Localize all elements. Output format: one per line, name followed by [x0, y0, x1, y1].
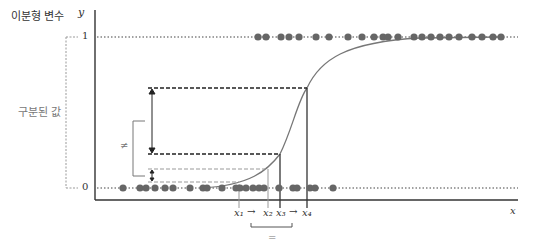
- observation-dot: [370, 33, 377, 40]
- observation-dot: [218, 184, 225, 191]
- x1-label: x₁: [234, 207, 244, 218]
- observation-dot: [358, 33, 365, 40]
- y-tick-1: 1: [82, 30, 88, 41]
- observation-dot: [445, 33, 452, 40]
- arrow-x3-x4: →: [289, 206, 297, 217]
- observation-dot: [186, 184, 193, 191]
- logistic-curve: [200, 37, 500, 188]
- observation-dot: [161, 184, 168, 191]
- observation-dot: [478, 33, 485, 40]
- observation-dot: [260, 184, 267, 191]
- equal-bracket: [251, 223, 292, 227]
- observation-dot: [119, 184, 126, 191]
- observation-dot: [468, 33, 475, 40]
- observation-dot: [295, 33, 302, 40]
- observation-dot: [344, 33, 351, 40]
- x4-label: x₄: [302, 207, 312, 218]
- y-tick-0: 0: [82, 181, 88, 192]
- observation-dot: [142, 184, 149, 191]
- y-axis-symbol: y: [78, 6, 84, 19]
- observation-dot: [489, 33, 496, 40]
- observation-dot: [384, 33, 391, 40]
- observation-dot: [436, 33, 443, 40]
- distinct-values-label: 구분된 값: [18, 103, 62, 119]
- distinct-values-bracket: [66, 37, 78, 188]
- observation-dot: [418, 33, 425, 40]
- observation-dot: [427, 33, 434, 40]
- observation-dot: [325, 33, 332, 40]
- not-equal-sign: ≠: [120, 140, 128, 151]
- observation-dot: [203, 184, 210, 191]
- small-difference-arrow: [150, 170, 154, 181]
- not-equal-bracket: [133, 121, 145, 176]
- observation-dot: [455, 33, 462, 40]
- y-axis-title: 이분형 변수: [11, 7, 65, 23]
- observation-dot: [277, 33, 284, 40]
- observation-dot: [285, 33, 292, 40]
- large-difference-arrow: [149, 89, 155, 153]
- observation-dot: [151, 184, 158, 191]
- observation-dot: [497, 33, 504, 40]
- observation-dot: [242, 184, 249, 191]
- observation-dot: [410, 33, 417, 40]
- observation-dot: [169, 184, 176, 191]
- arrow-x1-x2: →: [247, 206, 255, 217]
- observation-dot: [293, 184, 300, 191]
- observation-dot: [312, 33, 319, 40]
- x-axis-symbol: x: [510, 205, 516, 216]
- observation-dot: [329, 184, 336, 191]
- x3-label: x₃: [276, 207, 286, 218]
- x2-label: x₂: [263, 207, 273, 218]
- observation-dot: [254, 33, 261, 40]
- observation-dot: [275, 184, 282, 191]
- equal-sign: =: [268, 232, 276, 243]
- observation-dot: [262, 33, 269, 40]
- observation-dot: [311, 184, 318, 191]
- observation-dot: [394, 33, 401, 40]
